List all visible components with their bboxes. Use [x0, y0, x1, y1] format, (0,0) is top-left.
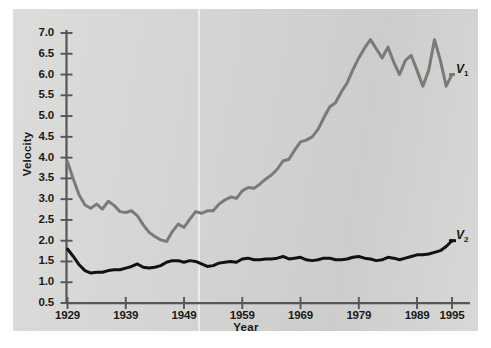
y-tick-label: 1.5	[22, 254, 54, 266]
data-series-group	[68, 40, 457, 273]
y-tick-label: 5.5	[22, 88, 54, 100]
y-tick-label: 2.0	[22, 234, 54, 246]
x-tick-label: 1939	[103, 309, 149, 321]
series-label-v2: V2	[456, 228, 468, 244]
series-line-v2	[68, 241, 453, 273]
y-tick-label: 2.5	[22, 213, 54, 225]
x-tick-label: 1949	[161, 309, 207, 321]
series-label-v2-text: V	[456, 228, 464, 242]
y-tick-label: 0.5	[22, 296, 54, 308]
y-tick-label: 6.5	[22, 47, 54, 59]
chart-figure: 0.51.01.52.02.53.03.54.04.55.05.56.06.57…	[0, 0, 491, 348]
x-tick-label: 1929	[45, 309, 91, 321]
series-label-v1-text: V	[456, 62, 464, 76]
axis-lines	[66, 30, 470, 304]
y-axis-title: Velocity	[21, 114, 33, 194]
x-tick-label: 1969	[278, 309, 324, 321]
y-tick-label: 6.0	[22, 68, 54, 80]
series-line-v1	[68, 40, 453, 242]
x-tick-label: 1979	[336, 309, 382, 321]
x-axis-title: Year	[201, 321, 291, 333]
x-tick-label: 1959	[219, 309, 265, 321]
series-label-v1: V1	[456, 62, 468, 78]
series-label-v2-subscript: 2	[464, 235, 468, 244]
y-tick-label: 7.0	[22, 26, 54, 38]
x-tick-label: 1995	[429, 309, 475, 321]
series-label-v1-subscript: 1	[464, 69, 468, 78]
y-tick-label: 1.0	[22, 275, 54, 287]
line-chart-plot	[0, 0, 491, 348]
